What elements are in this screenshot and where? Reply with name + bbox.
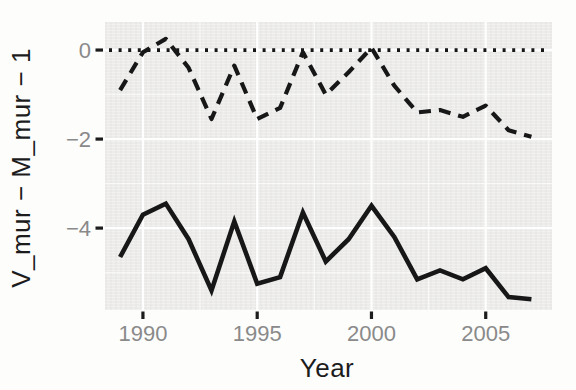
y-axis-title: V_mur − M_mur − 1	[6, 48, 36, 288]
y-tick-label: −4	[66, 216, 91, 241]
x-tick-label: 2005	[461, 321, 510, 346]
upper-dashed-series-line	[120, 39, 531, 137]
lower-solid-series-line	[120, 204, 531, 300]
y-tick-label: 0	[79, 38, 91, 63]
y-tick-label: −2	[66, 127, 91, 152]
x-axis-title: Year	[300, 353, 355, 383]
x-tick-label: 1995	[233, 321, 282, 346]
x-tick-label: 2000	[347, 321, 396, 346]
chart-generated-layers: 0−2−41990199520002005	[66, 22, 552, 346]
x-tick-label: 1990	[118, 321, 167, 346]
chart-canvas: 0−2−41990199520002005 V_mur − M_mur − 1 …	[0, 0, 576, 390]
line-chart-figure: 0−2−41990199520002005 V_mur − M_mur − 1 …	[0, 0, 576, 390]
